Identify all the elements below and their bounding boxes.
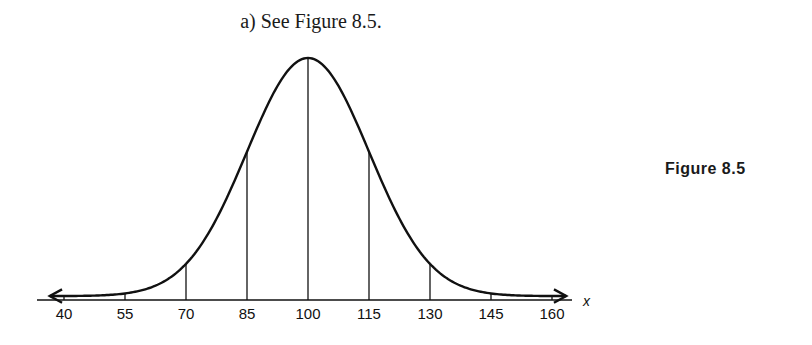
x-tick-labels: 40557085100115130145160 <box>56 305 565 322</box>
x-tick-label: 70 <box>178 305 195 322</box>
x-axis-label: x <box>582 293 591 309</box>
x-tick-label: 100 <box>295 305 320 322</box>
x-tick-label: 55 <box>117 305 134 322</box>
x-tick-label: 130 <box>417 305 442 322</box>
sd-vertical-lines <box>64 58 552 300</box>
x-tick-label: 160 <box>539 305 564 322</box>
x-tick-label: 40 <box>56 305 73 322</box>
x-tick-label: 145 <box>478 305 503 322</box>
normal-curve-chart: 40557085100115130145160 x <box>0 0 812 345</box>
x-tick-label: 115 <box>357 305 381 322</box>
x-tick-label: 85 <box>239 305 256 322</box>
